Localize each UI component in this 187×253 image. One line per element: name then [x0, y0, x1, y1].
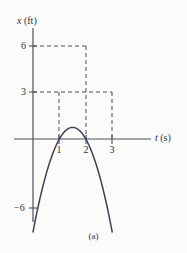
x-axis-unit: (s) — [160, 132, 171, 143]
plot-area — [0, 0, 187, 253]
y-tick-label-3: 3 — [21, 87, 26, 97]
figure-caption: (a) — [0, 232, 187, 241]
x-tick-label-3: 3 — [107, 145, 117, 155]
y-tick-label-minus-6: −6 — [14, 203, 25, 213]
y-tick-label-6: 6 — [21, 41, 26, 51]
y-axis-unit: (ft) — [24, 15, 37, 26]
x-tick-label-2: 2 — [81, 145, 91, 155]
position-curve — [33, 127, 112, 232]
position-time-graph-figure: x (ft) t (s) 6 3 −6 1 2 3 (a) — [0, 0, 187, 253]
y-axis-title: x (ft) — [17, 16, 37, 26]
x-axis-variable: t — [155, 132, 158, 143]
x-tick-label-1: 1 — [54, 145, 64, 155]
y-axis-variable: x — [17, 15, 21, 26]
x-axis-title: t (s) — [155, 133, 171, 143]
